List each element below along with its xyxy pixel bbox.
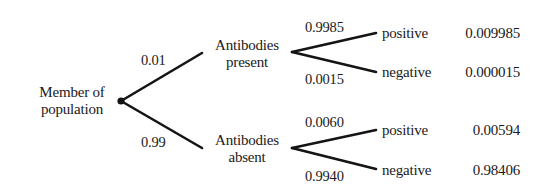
node-antibodies-absent: Antibodies absent (203, 132, 291, 166)
branch-present-to-positive (292, 33, 376, 52)
absent-label-line1: Antibodies (203, 132, 291, 149)
prob-absent-positive: 0.0060 (305, 115, 344, 130)
joint-present-positive: 0.009985 (440, 26, 520, 41)
leaf-present-positive: positive (382, 26, 428, 41)
root-label-line1: Member of (26, 84, 118, 101)
root-node-label: Member of population (26, 84, 118, 118)
leaf-present-negative: negative (382, 65, 431, 80)
prob-absent: 0.99 (141, 135, 166, 150)
absent-label-line2: absent (203, 149, 291, 166)
leaf-absent-negative: negative (382, 163, 431, 178)
present-label-line2: present (203, 54, 291, 71)
joint-absent-negative: 0.98406 (440, 163, 520, 178)
branch-present-to-negative (292, 52, 376, 72)
joint-present-negative: 0.000015 (440, 65, 520, 80)
prob-present-positive: 0.9985 (305, 20, 344, 35)
present-label-line1: Antibodies (203, 37, 291, 54)
branch-absent-to-negative (292, 148, 376, 169)
prob-present-negative: 0.0015 (305, 72, 344, 87)
leaf-absent-positive: positive (382, 123, 428, 138)
probability-tree-diagram: Member of population 0.01 0.99 Antibodie… (0, 0, 547, 196)
prob-absent-negative: 0.9940 (305, 169, 344, 184)
root-label-line2: population (26, 101, 118, 118)
joint-absent-positive: 0.00594 (440, 123, 520, 138)
branch-absent-to-positive (292, 130, 376, 148)
node-antibodies-present: Antibodies present (203, 37, 291, 71)
prob-present: 0.01 (141, 53, 166, 68)
